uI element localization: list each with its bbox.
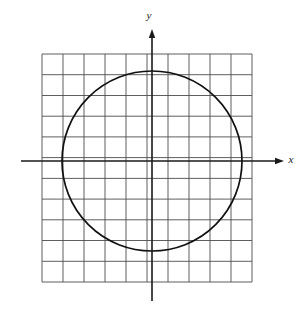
graph-figure: xy — [0, 0, 308, 317]
y-axis-arrowhead — [149, 29, 155, 38]
x-axis-label: x — [288, 153, 294, 165]
y-axis-label: y — [146, 9, 152, 21]
grid-lines — [42, 54, 252, 282]
axes — [21, 29, 284, 301]
x-axis-arrowhead — [275, 158, 284, 164]
plot-canvas: xy — [0, 0, 308, 317]
